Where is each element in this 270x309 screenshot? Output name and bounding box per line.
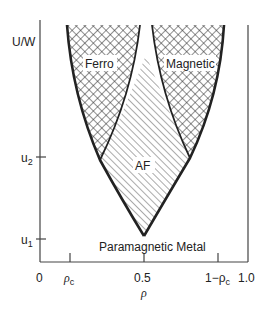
rho-c-label: ρc <box>63 271 75 287</box>
af-label: AF <box>135 159 150 173</box>
u1-label: u1 <box>21 233 33 249</box>
y-axis-label: U/W <box>12 35 36 49</box>
x-axis-label: ρ <box>140 286 147 300</box>
paramagnetic-metal-label: Paramagnetic Metal <box>99 240 206 254</box>
one-minus-rho-c-label: 1−ρc <box>205 271 231 287</box>
phase-diagram: U/W u2 u1 0 ρc 0.5 1−ρc 1.0 ρ Ferro Magn… <box>0 0 270 309</box>
u2-label: u2 <box>21 151 33 167</box>
x-one-label: 1.0 <box>238 271 255 285</box>
magnetic-label: Magnetic <box>166 57 215 71</box>
x-zero-label: 0 <box>36 271 43 285</box>
x-half-label: 0.5 <box>134 271 151 285</box>
ferro-label: Ferro <box>85 57 114 71</box>
